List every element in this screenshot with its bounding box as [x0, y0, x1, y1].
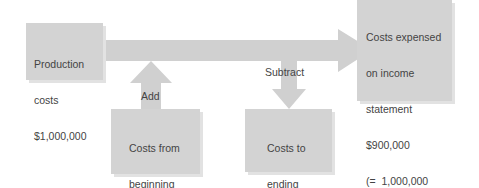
ending-line-1: Costs to — [267, 142, 311, 154]
expensed-line-3: statement — [366, 103, 441, 115]
production-line-3: $1,000,000 — [34, 130, 87, 142]
add-label: Add — [141, 90, 160, 102]
production-costs-box: Production costs $1,000,000 — [26, 23, 103, 80]
expensed-line-2: on income — [366, 67, 441, 79]
beginning-line-2: beginning — [129, 178, 180, 188]
add-arrow — [130, 61, 172, 110]
beginning-line-1: Costs from — [129, 142, 180, 154]
expensed-calc-1: (= 1,000,000 — [366, 175, 441, 187]
ending-inventory-box: Costs to ending inventory $300,000 — [245, 109, 332, 172]
expensed-amount: $900,000 — [366, 139, 441, 151]
production-line-1: Production — [34, 58, 87, 70]
costs-expensed-box: Costs expensed on income statement $900,… — [357, 0, 452, 101]
production-line-2: costs — [34, 94, 87, 106]
beginning-inventory-box: Costs from beginning inventory $200,000 — [111, 109, 200, 174]
ending-line-2: ending — [267, 178, 311, 188]
subtract-label: Subtract — [265, 66, 304, 78]
expensed-line-1: Costs expensed — [366, 31, 441, 43]
main-flow-arrow — [100, 29, 372, 72]
cost-flow-diagram: Production costs $1,000,000 Costs expens… — [0, 0, 479, 188]
